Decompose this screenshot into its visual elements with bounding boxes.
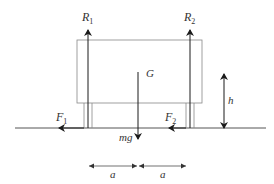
diagram-svg: R1 R2 G h F1 F2 mg a a [0,0,274,184]
label-h: h [228,94,234,106]
label-f1: F1 [55,110,67,126]
label-f2: F2 [164,110,176,126]
label-mg: mg [119,131,133,143]
label-a-left: a [110,168,116,180]
label-r2: R2 [183,10,195,26]
body-rectangle [77,40,202,103]
label-r1: R1 [81,10,93,26]
label-g: G [146,67,154,79]
force-diagram: R1 R2 G h F1 F2 mg a a [0,0,274,184]
label-a-right: a [160,168,166,180]
